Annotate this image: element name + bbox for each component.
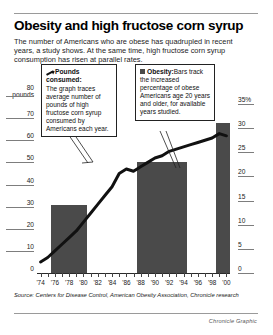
callout-body-pounds: The graph traces average number of pound… (46, 85, 109, 132)
callout-leader-lines (0, 0, 273, 335)
bar-swatch-icon (140, 69, 145, 74)
callout-heading-obesity: Obesity:Bars track the increased percent… (140, 68, 211, 116)
callout-obesity: Obesity:Bars track the increased percent… (135, 64, 215, 121)
pen-icon (46, 69, 54, 75)
callout-heading-pounds: Pounds consumed: (46, 68, 113, 84)
callout-pounds-consumed: Pounds consumed: The graph traces averag… (41, 64, 117, 137)
callout-heading-obesity-text: Obesity: (147, 68, 174, 75)
chart-graphic: Obesity and high fructose corn syrup The… (0, 0, 273, 335)
callout-body-obesity-lead: Bars track the increased percentage of o… (140, 68, 210, 115)
